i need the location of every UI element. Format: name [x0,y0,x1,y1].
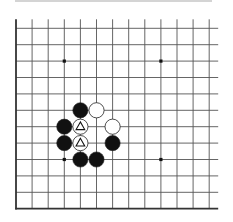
white-stone-disc [89,103,104,118]
black-stone [57,119,72,134]
white-stone-disc [105,119,120,134]
star-point [159,60,162,63]
black-stone-disc [57,136,72,151]
stones [57,103,120,167]
white-stone [73,119,88,134]
star-point [159,158,162,161]
black-stone-disc [73,103,88,118]
black-stone [105,136,120,151]
black-stone [73,103,88,118]
white-stone [89,103,104,118]
black-stone-disc [105,136,120,151]
star-point [63,60,66,63]
black-stone-disc [89,152,104,167]
white-stone [105,119,120,134]
white-stone [73,136,88,151]
go-board-diagram [0,0,233,222]
black-stone [89,152,104,167]
black-stone [57,136,72,151]
board-edges [15,19,218,209]
black-stone-disc [73,152,88,167]
go-board [0,0,233,222]
black-stone-disc [57,119,72,134]
board-grid [16,19,218,208]
star-point [63,158,66,161]
black-stone [73,152,88,167]
